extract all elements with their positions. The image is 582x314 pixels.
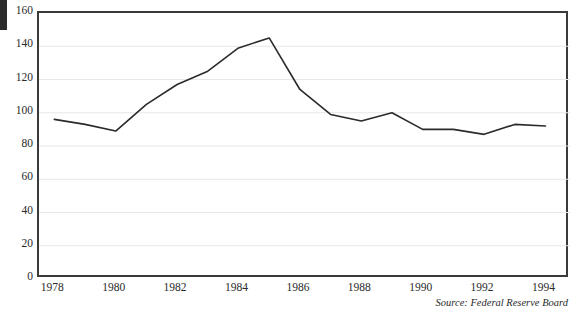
source-note: Source: Federal Reserve Board: [436, 297, 568, 308]
x-tick-label: 1994: [532, 282, 555, 294]
x-tick-label: 1986: [286, 282, 309, 294]
cropped-title: continued: [150, 0, 450, 2]
chart-figure: continued 020406080100120140160 19781980…: [0, 0, 582, 314]
y-tick-label: 20: [1, 238, 33, 250]
x-tick-label: 1984: [225, 282, 248, 294]
y-tick-label: 60: [1, 171, 33, 183]
y-tick-label: 160: [1, 5, 33, 17]
plot-area: [37, 11, 568, 277]
x-tick-label: 1980: [102, 282, 125, 294]
y-tick-label: 100: [1, 105, 33, 117]
y-axis: 020406080100120140160: [0, 0, 33, 314]
y-tick-label: 120: [1, 72, 33, 84]
x-tick-label: 1988: [348, 282, 371, 294]
data-series-line: [54, 38, 545, 134]
x-tick-label: 1990: [409, 282, 432, 294]
y-tick-label: 0: [1, 271, 33, 283]
y-tick-label: 140: [1, 38, 33, 50]
x-tick-label: 1992: [471, 282, 494, 294]
x-tick-label: 1982: [164, 282, 187, 294]
gridlines: [39, 46, 570, 246]
y-tick-label: 80: [1, 138, 33, 150]
line-chart-svg: [39, 13, 570, 279]
x-tick-label: 1978: [41, 282, 64, 294]
y-tick-label: 40: [1, 205, 33, 217]
